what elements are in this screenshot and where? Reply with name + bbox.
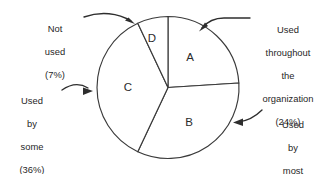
arrow-head-most xyxy=(233,119,243,127)
callout-most-line-1: Used xyxy=(264,119,322,131)
callout-some-line-2: by xyxy=(4,118,60,130)
callout-not-used-line-2: used xyxy=(26,46,84,58)
callout-throughout-line-4: organization xyxy=(252,93,324,105)
callout-not-used-line-3: (7%) xyxy=(26,69,84,81)
callout-some-line-4: (36%) xyxy=(4,164,60,174)
callout-some-line-3: some xyxy=(4,141,60,153)
callout-not-used-line-1: Not xyxy=(26,23,84,35)
slice-letter-c: C xyxy=(124,81,132,93)
callout-throughout-line-2: throughout xyxy=(252,47,324,59)
callout-some-line-1: Used xyxy=(4,95,60,107)
callout-used-by-most: Used by most (33%) xyxy=(264,107,322,174)
callout-most-line-2: by xyxy=(264,142,322,154)
callout-used-by-some: Used by some (36%) xyxy=(4,83,60,174)
callout-throughout-line-3: the xyxy=(252,70,324,82)
slice-letter-a: A xyxy=(186,51,194,63)
callout-throughout-line-1: Used xyxy=(252,24,324,36)
callout-most-line-3: most xyxy=(264,165,322,174)
slice-letter-d: D xyxy=(148,32,156,44)
slice-letter-b: B xyxy=(185,116,193,128)
leader-line-throughout xyxy=(202,18,250,28)
pie-chart-figure: A B C D Not used (7%) Used throughout th… xyxy=(0,0,327,174)
leader-line-not-used xyxy=(84,14,131,21)
callout-not-used: Not used (7%) xyxy=(26,11,84,92)
